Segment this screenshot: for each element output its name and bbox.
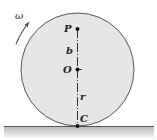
omega-label: ω — [15, 10, 23, 21]
ground-surface — [4, 127, 154, 138]
angular-velocity-arrow-icon — [16, 22, 29, 44]
distance-b-label: b — [66, 45, 73, 56]
rolling-disk-diagram: ω P b O r C — [0, 0, 157, 140]
point-p-dot — [76, 27, 80, 31]
point-p-label: P — [63, 23, 72, 34]
center-o-dot — [76, 68, 80, 72]
radius-r-label: r — [80, 91, 86, 102]
contact-c-label: C — [80, 113, 88, 124]
contact-c-dot — [76, 124, 80, 128]
center-o-label: O — [63, 64, 72, 75]
